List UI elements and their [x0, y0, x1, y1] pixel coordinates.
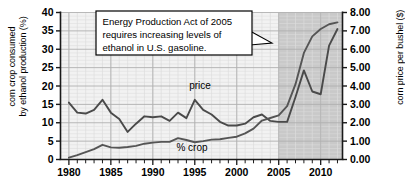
y-tick-right-5.00: 5.00: [350, 61, 371, 73]
y-axis-right-title: corn price per bushel ($): [395, 0, 405, 132]
x-tick-1990: 1990: [141, 166, 165, 178]
callout-line-1: Energy Production Act of 2005: [103, 16, 233, 27]
series-label-percent-crop: % crop: [176, 142, 208, 153]
y-tick-right-6.00: 6.00: [350, 43, 371, 55]
y-axis-left-title-line1: corn crop consumed: [7, 0, 18, 142]
y-tick-left-15: 15: [42, 98, 54, 110]
y-tick-right-7.00: 7.00: [350, 24, 371, 36]
y-tick-left-20: 20: [42, 80, 54, 92]
callout-line-2: requires increasing levels of: [103, 29, 222, 40]
x-tick-1985: 1985: [99, 166, 123, 178]
y-axis-left-title: corn crop consumed by ethanol production…: [7, 0, 28, 142]
y-tick-left-40: 40: [42, 6, 54, 18]
y-tick-left-35: 35: [42, 24, 54, 36]
y-axis-left-title-line2: by ethanol production (%): [17, 0, 28, 142]
y-tick-right-1.00: 1.00: [350, 135, 371, 147]
y-tick-left-30: 30: [42, 43, 54, 55]
y-tick-left-25: 25: [42, 61, 54, 73]
callout-line-3: ethanol in U.S. gasoline.: [103, 42, 207, 53]
y-tick-right-2.00: 2.00: [350, 116, 371, 128]
series-label-price: price: [189, 80, 211, 91]
x-tick-2010: 2010: [309, 166, 333, 178]
y-tick-left-10: 10: [42, 116, 54, 128]
y-tick-right-0.00: 0.00: [350, 153, 371, 165]
y-tick-right-8.00: 8.00: [350, 6, 371, 18]
energy-act-callout: Energy Production Act of 2005requires in…: [96, 11, 272, 55]
x-tick-2000: 2000: [225, 166, 249, 178]
y-tick-right-4.00: 4.00: [350, 80, 371, 92]
x-tick-1995: 1995: [183, 166, 207, 178]
y-tick-left-0: 0: [48, 153, 54, 165]
y-tick-right-3.00: 3.00: [350, 98, 371, 110]
x-tick-1980: 1980: [57, 166, 81, 178]
x-tick-2005: 2005: [267, 166, 291, 178]
y-tick-left-5: 5: [48, 135, 54, 147]
